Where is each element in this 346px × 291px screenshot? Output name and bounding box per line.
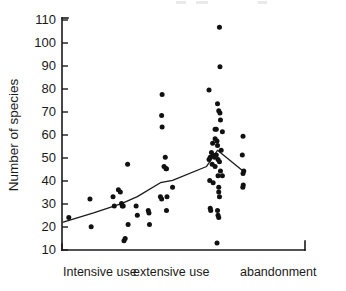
data-point: [217, 194, 222, 199]
data-point: [217, 159, 222, 164]
x-category-extensive-use: extensive use: [133, 265, 209, 279]
data-point: [211, 180, 216, 185]
data-point: [241, 171, 246, 176]
data-point: [135, 213, 140, 218]
data-point: [216, 215, 221, 220]
y-tick-label-90: 90: [42, 58, 56, 73]
data-point: [208, 208, 213, 213]
data-point: [160, 92, 165, 97]
y-tick-label-40: 40: [42, 173, 56, 188]
data-point: [134, 203, 139, 208]
data-point: [159, 196, 164, 201]
data-point: [241, 134, 246, 139]
y-tick-label-110: 110: [35, 12, 56, 27]
data-point: [240, 152, 245, 157]
data-point: [121, 203, 126, 208]
scatter-plot-figure: Number of species 10 20 30 40 50 60 70 8…: [0, 0, 346, 291]
data-point: [123, 236, 128, 241]
data-point: [111, 194, 116, 199]
data-point: [215, 208, 220, 213]
data-point: [215, 101, 220, 106]
data-point: [164, 194, 169, 199]
data-point: [112, 203, 117, 208]
data-point: [219, 148, 224, 153]
data-point: [118, 190, 123, 195]
data-point: [164, 208, 169, 213]
data-point: [240, 185, 245, 190]
data-point: [210, 141, 215, 146]
y-axis-label: Number of species: [6, 78, 21, 191]
data-point: [214, 127, 219, 132]
data-point: [217, 25, 222, 30]
data-point: [215, 138, 220, 143]
data-point: [147, 222, 152, 227]
data-point: [217, 64, 222, 69]
data-point: [216, 173, 221, 178]
y-tick-label-80: 80: [42, 81, 56, 96]
data-point: [125, 162, 130, 167]
data-point: [66, 215, 71, 220]
data-point: [213, 164, 218, 169]
y-tick-label-70: 70: [42, 104, 56, 119]
data-point: [218, 118, 223, 123]
data-point: [220, 129, 225, 134]
x-category-intensive-use: Intensive use: [63, 265, 137, 279]
data-point: [216, 185, 221, 190]
data-point: [170, 185, 175, 190]
data-point: [146, 210, 151, 215]
y-tick-marks: [62, 20, 68, 250]
data-point: [89, 224, 94, 229]
data-point: [220, 173, 225, 178]
data-point: [164, 166, 169, 171]
y-tick-label-30: 30: [42, 196, 56, 211]
scan-artifact: [258, 1, 267, 4]
data-point: [207, 157, 212, 162]
y-tick-label-20: 20: [42, 219, 56, 234]
data-point: [207, 87, 212, 92]
scan-artifact: [176, 1, 186, 4]
data-point: [160, 125, 165, 130]
data-point: [218, 169, 223, 174]
data-point: [216, 190, 221, 195]
y-tick-label-10: 10: [42, 242, 56, 257]
scan-artifact: [196, 1, 208, 4]
data-point: [215, 143, 220, 148]
y-tick-label-100: 100: [34, 35, 56, 50]
data-point: [215, 241, 220, 246]
data-point: [126, 222, 131, 227]
data-point: [217, 111, 222, 116]
data-point: [159, 113, 164, 118]
y-tick-label-50: 50: [42, 150, 56, 165]
x-category-abandonment: abandonment: [240, 265, 317, 279]
data-point: [87, 196, 92, 201]
data-point: [163, 155, 168, 160]
y-tick-label-60: 60: [42, 127, 56, 142]
